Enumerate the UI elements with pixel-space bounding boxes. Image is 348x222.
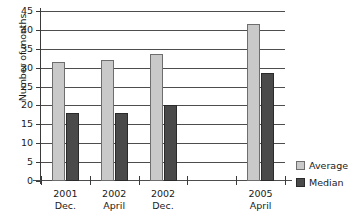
x-label-month: April [90, 200, 139, 212]
bar-average [150, 54, 163, 181]
legend-item: Average [296, 157, 348, 174]
legend-swatch-average [296, 161, 305, 170]
x-label-year: 2001 [41, 188, 90, 200]
x-label-year: 2002 [90, 188, 139, 200]
gridline [41, 11, 285, 12]
y-tick-label: 25 [0, 82, 33, 92]
bar-median [164, 105, 177, 181]
y-tick-label: 45 [0, 6, 33, 16]
legend-label: Average [309, 161, 348, 171]
x-label-year: 2002 [139, 188, 188, 200]
y-tick-label: 35 [0, 44, 33, 54]
legend-label: Median [309, 178, 344, 188]
x-tick-mark [236, 176, 237, 185]
chart-legend: AverageMedian [296, 157, 348, 191]
y-tick-label: 20 [0, 100, 33, 110]
bar-average [247, 24, 260, 181]
x-label-month: April [236, 200, 285, 212]
bar-median [261, 73, 274, 181]
y-tick-label: 40 [0, 25, 33, 35]
x-axis-category-label: 2002Dec. [139, 188, 188, 211]
x-label-month: Dec. [41, 200, 90, 212]
bar-median [66, 113, 79, 181]
x-axis-category-label: 2001Dec. [41, 188, 90, 211]
x-label-year: 2005 [236, 188, 285, 200]
plot-area [41, 11, 285, 181]
bar-median [115, 113, 128, 181]
y-tick-label: 5 [0, 157, 33, 167]
y-tick-label: 10 [0, 138, 33, 148]
x-tick-mark [139, 176, 140, 185]
x-label-month: Dec. [139, 200, 188, 212]
x-axis-category-label: 2005April [236, 188, 285, 211]
y-tick-label: 0 [0, 176, 33, 186]
x-tick-mark [41, 176, 42, 185]
bar-average [101, 60, 114, 181]
x-tick-mark [285, 176, 286, 185]
legend-item: Median [296, 174, 348, 191]
y-tick-label: 15 [0, 119, 33, 129]
x-tick-mark [187, 176, 188, 185]
y-tick-label: 30 [0, 63, 33, 73]
legend-swatch-median [296, 178, 305, 187]
x-tick-mark [90, 176, 91, 185]
x-axis-category-label: 2002April [90, 188, 139, 211]
bar-average [52, 62, 65, 181]
